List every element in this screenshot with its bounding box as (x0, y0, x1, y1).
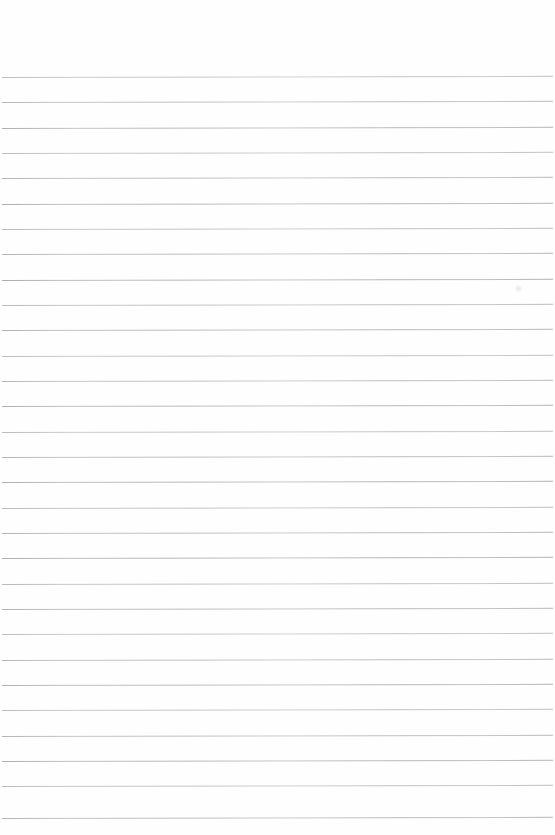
lined-paper-sheet (0, 0, 555, 835)
page-writing-surface[interactable] (0, 0, 555, 835)
